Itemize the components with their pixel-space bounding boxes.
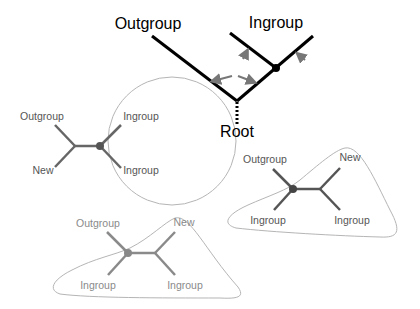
arrow-up-left-icon	[298, 54, 305, 60]
left-new-label: New	[32, 164, 53, 176]
new-branch	[155, 232, 175, 253]
outgroup-branch	[152, 36, 237, 101]
arrow-right-icon	[238, 76, 254, 82]
root-node	[124, 249, 132, 257]
bottom-ingroup-left-label: Ingroup	[80, 279, 116, 291]
top-root-label: Root	[220, 123, 254, 141]
top-rooted-tree	[152, 33, 313, 124]
ingroup-branch-bottom	[100, 146, 121, 168]
diagram-canvas: Outgroup Ingroup Root Outgroup New Ingro…	[0, 0, 420, 309]
right-new-label: New	[339, 151, 360, 163]
ingroup-branch-right	[155, 253, 175, 275]
left-outgroup-label: Outgroup	[20, 110, 64, 122]
outgroup-branch	[55, 125, 75, 146]
root-node	[289, 185, 297, 193]
top-ingroup-label: Ingroup	[249, 14, 303, 32]
outgroup-branch	[273, 169, 293, 189]
left-ingroup-bottom-label: Ingroup	[123, 164, 159, 176]
ingroup-branch-left	[108, 253, 128, 275]
bottom-ingroup-right-label: Ingroup	[167, 279, 203, 291]
right-outgroup-label: Outgroup	[243, 153, 287, 165]
outgroup-branch	[107, 232, 128, 253]
bottom-new-label: New	[173, 216, 194, 228]
ingroup-branch-left	[274, 189, 293, 210]
ingroup-branch-left	[230, 33, 276, 68]
new-branch	[320, 168, 340, 189]
arrow-left-icon	[213, 76, 232, 81]
left-unrooted-tree	[55, 77, 236, 205]
ingroup-branch-right	[320, 189, 340, 210]
top-outgroup-label: Outgroup	[115, 15, 182, 33]
left-ingroup-top-label: Ingroup	[123, 110, 159, 122]
arrow-up-icon	[243, 51, 247, 59]
right-ingroup-right-label: Ingroup	[334, 214, 370, 226]
bottom-outgroup-label: Outgroup	[76, 217, 120, 229]
ingroup-node	[272, 64, 280, 72]
ingroup-circle	[108, 77, 236, 205]
ingroup-branch-top	[100, 125, 121, 146]
new-branch	[55, 146, 75, 167]
right-ingroup-left-label: Ingroup	[250, 214, 286, 226]
ingroup-node	[96, 142, 104, 150]
